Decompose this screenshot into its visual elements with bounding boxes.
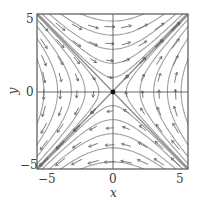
- direction-arrow-icon: [121, 160, 132, 163]
- y-tick-neg5: −5: [20, 159, 38, 171]
- direction-arrow-icon: [107, 110, 113, 113]
- streamline: [195, 20, 198, 166]
- direction-arrow-icon: [106, 127, 114, 130]
- direction-arrow-icon: [140, 58, 146, 64]
- y-axis-label: y: [7, 88, 19, 95]
- direction-arrow-icon: [137, 159, 148, 164]
- direction-arrow-icon: [41, 39, 48, 49]
- direction-arrow-icon: [90, 58, 96, 62]
- direction-arrow-icon: [72, 159, 83, 165]
- direction-arrow-icon: [124, 75, 128, 79]
- direction-arrow-icon: [122, 42, 131, 45]
- y-tick-0: 0: [26, 86, 34, 98]
- x-axis-label: x: [110, 187, 117, 199]
- direction-arrow-icon: [141, 108, 145, 115]
- x-tick-5: 5: [176, 173, 184, 185]
- direction-arrow-icon: [43, 72, 46, 83]
- direction-arrow-icon: [56, 141, 64, 149]
- direction-arrow-icon: [59, 73, 62, 82]
- streamlines: [3, 0, 198, 204]
- x-tick-neg5: −5: [38, 173, 56, 185]
- streamline: [140, 0, 198, 201]
- direction-arrow-icon: [59, 90, 62, 99]
- direction-arrow-icon: [91, 75, 95, 80]
- direction-arrow-icon: [58, 107, 62, 116]
- direction-arrow-icon: [106, 59, 113, 62]
- direction-arrow-icon: [173, 56, 178, 66]
- x-tick-0: 0: [109, 173, 117, 185]
- direction-arrow-icon: [175, 72, 178, 82]
- direction-arrow-icon: [174, 89, 177, 99]
- streamline: [40, 0, 182, 7]
- direction-arrow-icon: [122, 143, 131, 146]
- streamline: [126, 0, 198, 203]
- direction-arrow-icon: [104, 161, 115, 164]
- phase-portrait: [0, 0, 198, 207]
- direction-arrow-icon: [91, 109, 96, 114]
- direction-arrow-icon: [105, 25, 116, 28]
- direction-arrow-icon: [154, 159, 164, 166]
- direction-arrow-icon: [158, 73, 161, 82]
- direction-arrow-icon: [138, 24, 148, 29]
- streamline: [4, 106, 199, 205]
- direction-arrow-icon: [124, 109, 129, 113]
- direction-arrow-icon: [58, 56, 63, 65]
- direction-arrow-icon: [172, 39, 179, 49]
- direction-arrow-icon: [88, 25, 98, 29]
- direction-arrow-icon: [121, 25, 131, 28]
- direction-arrow-icon: [157, 56, 162, 64]
- direction-arrow-icon: [123, 126, 130, 129]
- equilibrium-point: [111, 90, 116, 95]
- direction-arrow-icon: [154, 23, 164, 30]
- direction-arrow-icon: [56, 23, 65, 31]
- y-tick-5: 5: [26, 13, 34, 25]
- direction-arrow-icon: [174, 106, 178, 116]
- direction-arrow-icon: [75, 74, 78, 81]
- direction-arrow-icon: [158, 90, 161, 99]
- direction-arrow-icon: [139, 41, 147, 46]
- direction-arrow-icon: [89, 143, 98, 147]
- direction-arrow-icon: [42, 89, 45, 100]
- direction-arrow-icon: [42, 55, 47, 66]
- direction-arrow-icon: [41, 123, 47, 133]
